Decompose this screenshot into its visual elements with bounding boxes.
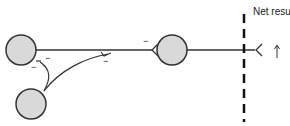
axon-b-to-axon [44,54,108,91]
neuron-b [16,89,46,119]
neuron-c [157,35,187,65]
inhibitory-sign: − [31,62,36,72]
synapse-output-icon [256,44,262,56]
inhibition-diagram [0,0,290,126]
inhibitory-sign: − [103,56,108,66]
net-result-label: Net result [253,6,290,17]
inhibitory-sign: − [45,53,50,63]
neuron-a [6,35,36,65]
inhibitory-sign: − [143,36,148,46]
